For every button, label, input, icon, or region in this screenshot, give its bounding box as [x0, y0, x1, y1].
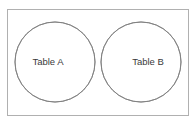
set-label-table-a: Table A [32, 56, 64, 67]
venn-diagram-figure: Table A Table B [0, 0, 196, 124]
set-label-table-b: Table B [132, 56, 164, 67]
venn-diagram-canvas: Table A Table B [0, 0, 196, 124]
